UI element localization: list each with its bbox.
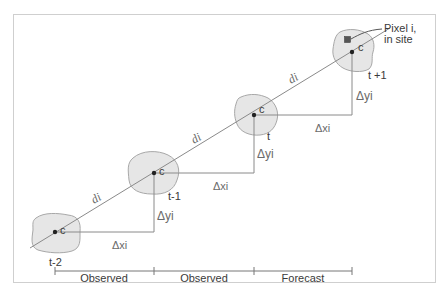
time-label-t: t xyxy=(267,130,270,142)
timeline-label-observed-2: Observed xyxy=(180,272,228,284)
centroid-label: c xyxy=(60,224,66,236)
centroid-label: c xyxy=(159,165,165,177)
centroid-t-plus-1 xyxy=(350,50,354,54)
centroid-label: c xyxy=(358,41,364,53)
timeline-label-observed-1: Observed xyxy=(80,272,128,284)
pixel-marker xyxy=(345,37,351,43)
delta-x-label: Δxi xyxy=(213,180,228,192)
centroid-t-minus-2 xyxy=(53,230,57,234)
delta-y-label: Δyi xyxy=(157,209,174,223)
centroid-t-minus-1 xyxy=(152,171,156,175)
site-displacement-diagram: c c c c t-2 t-1 t t +1 di di di Δxi Δxi … xyxy=(0,0,446,305)
delta-x-label: Δxi xyxy=(112,239,127,251)
delta-x-label: Δxi xyxy=(315,122,330,134)
delta-y-label: Δyi xyxy=(356,89,373,103)
time-label-t-plus-1: t +1 xyxy=(368,69,387,81)
pixel-annotation-line2: in site xyxy=(384,33,413,45)
time-label-t-minus-2: t-2 xyxy=(49,256,62,268)
trajectory-line xyxy=(30,28,390,248)
timeline-label-forecast: Forecast xyxy=(282,272,325,284)
centroid-label: c xyxy=(259,103,265,115)
time-label-t-minus-1: t-1 xyxy=(168,190,181,202)
distance-label: di xyxy=(188,130,203,147)
centroid-t xyxy=(252,113,256,117)
delta-y-label: Δyi xyxy=(257,147,274,161)
